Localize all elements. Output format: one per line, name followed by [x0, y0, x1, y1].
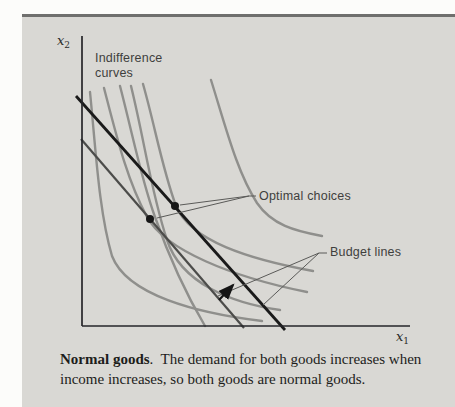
y-axis-label-sub: 2 [64, 40, 70, 50]
optimal-choices-pointer-line-upper [180, 196, 249, 205]
figure-page: x2 x1 Indifference curves Optimal choice… [0, 0, 455, 407]
x-axis-label-sub: 1 [403, 336, 409, 346]
optimal-choice-dot-outer [171, 202, 179, 210]
optimal-choice-dot-inner [146, 215, 154, 223]
budget-lines-label: Budget lines [330, 245, 401, 260]
indifference-curve-1 [211, 80, 322, 236]
caption-title: Normal goods [60, 351, 150, 367]
optimal-choices-label: Optimal choices [259, 189, 351, 204]
indifference-curve-5 [120, 86, 205, 326]
caption-line1: . The demand for both goods increases wh… [150, 351, 422, 367]
x-axis-label: x1 [396, 329, 409, 346]
budget-line-outer [76, 96, 285, 330]
indifference-curve-diagram [0, 0, 455, 407]
caption-line2: income increases, so both goods are norm… [60, 369, 438, 389]
indifference-curves-label: Indifference curves [95, 51, 163, 81]
y-axis-label: x2 [57, 33, 70, 50]
figure-caption: Normal goods. The demand for both goods … [60, 349, 438, 389]
